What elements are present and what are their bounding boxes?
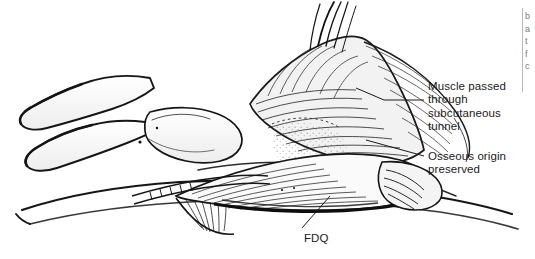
right-edge-divider bbox=[522, 8, 523, 92]
annotation-muscle-passed: Muscle passed through subcutaneous tunne… bbox=[428, 80, 506, 134]
annotation-fdq: FDQ bbox=[304, 232, 329, 245]
right-edge-text-fragment: b a t f c bbox=[525, 10, 535, 90]
anatomical-figure: Muscle passed through subcutaneous tunne… bbox=[0, 0, 535, 259]
annotation-osseous-origin: Osseous origin preserved bbox=[428, 150, 506, 177]
